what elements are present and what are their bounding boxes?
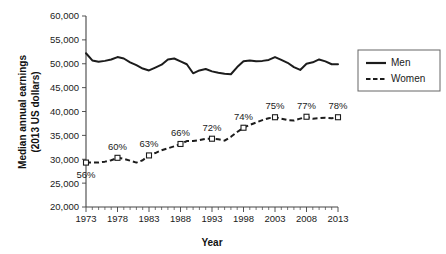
- y-tick-label: 25,000: [50, 178, 79, 189]
- annotation-label: 77%: [297, 100, 317, 111]
- data-point-marker: [336, 115, 341, 120]
- legend-label-women: Women: [391, 73, 425, 84]
- legend-label-men: Men: [391, 57, 410, 68]
- annotation-label: 60%: [108, 141, 128, 152]
- line-chart: 20,00025,00030,00035,00040,00045,00050,0…: [0, 0, 446, 254]
- x-tick-label: 1993: [201, 213, 222, 224]
- legend-box: [358, 50, 440, 91]
- y-tick-label: 55,000: [50, 34, 79, 45]
- data-point-marker: [84, 160, 89, 165]
- x-tick-label: 1988: [170, 213, 191, 224]
- y-tick-label: 50,000: [50, 58, 79, 69]
- x-tick-label: 1973: [75, 213, 96, 224]
- x-axis-title: Year: [201, 237, 222, 248]
- y-axis-title-line2: (2013 US dollars): [30, 71, 41, 152]
- annotation-label: 72%: [202, 122, 222, 133]
- annotation-label: 74%: [234, 111, 254, 122]
- annotation-label: 56%: [76, 169, 96, 180]
- annotation-label: 66%: [171, 127, 191, 138]
- x-tick-label: 1998: [233, 213, 254, 224]
- data-point-marker: [304, 114, 309, 119]
- x-tick-label: 2008: [296, 213, 317, 224]
- x-tick-label: 2013: [327, 213, 348, 224]
- y-axis-title-line1: Median annual earnings: [17, 55, 28, 169]
- x-tick-label: 1983: [138, 213, 159, 224]
- x-tick-label: 2003: [264, 213, 285, 224]
- chart-container: 20,00025,00030,00035,00040,00045,00050,0…: [0, 0, 446, 254]
- annotation-label: 78%: [328, 100, 348, 111]
- x-tick-label: 1978: [107, 213, 128, 224]
- y-tick-label: 20,000: [50, 201, 79, 212]
- data-point-marker: [210, 136, 215, 141]
- y-tick-label: 45,000: [50, 82, 79, 93]
- data-point-marker: [178, 141, 183, 146]
- data-point-marker: [115, 155, 120, 160]
- data-point-marker: [273, 115, 278, 120]
- y-tick-label: 40,000: [50, 106, 79, 117]
- data-point-marker: [147, 153, 152, 158]
- chart-legend: Men Women: [358, 50, 440, 91]
- data-point-marker: [241, 125, 246, 130]
- annotation-label: 63%: [139, 138, 159, 149]
- y-tick-label: 35,000: [50, 130, 79, 141]
- y-tick-label: 30,000: [50, 154, 79, 165]
- x-axis-ticks: 197319781983198819931998200320082013: [75, 207, 348, 224]
- series-line-men: [86, 53, 338, 74]
- y-tick-label: 60,000: [50, 10, 79, 21]
- annotation-label: 75%: [265, 100, 285, 111]
- y-axis-ticks: 20,00025,00030,00035,00040,00045,00050,0…: [50, 10, 86, 212]
